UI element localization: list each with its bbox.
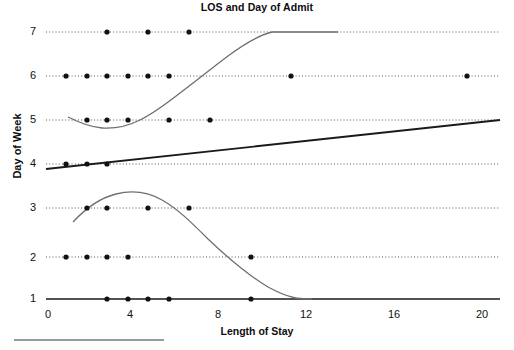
data-point: [145, 296, 150, 301]
data-point: [104, 161, 109, 166]
data-point: [166, 73, 171, 78]
data-point: [464, 73, 469, 78]
data-point: [63, 161, 68, 166]
data-point: [207, 117, 212, 122]
data-point: [125, 296, 130, 301]
footer-divider: [14, 339, 164, 341]
plot-area: [0, 0, 514, 350]
data-point: [84, 205, 89, 210]
chart-container: LOS and Day of Admit Day of Week Length …: [0, 0, 514, 350]
data-point: [145, 29, 150, 34]
data-point: [84, 161, 89, 166]
data-point: [248, 296, 253, 301]
data-point: [104, 29, 109, 34]
data-point: [104, 254, 109, 259]
data-point: [63, 73, 68, 78]
data-point: [288, 73, 293, 78]
data-point: [125, 117, 130, 122]
data-point: [84, 117, 89, 122]
data-point: [104, 73, 109, 78]
data-point: [186, 29, 191, 34]
data-point: [84, 254, 89, 259]
data-point: [63, 254, 68, 259]
data-point: [145, 73, 150, 78]
data-point: [104, 117, 109, 122]
upper-fitted-curve: [68, 32, 338, 128]
data-point: [166, 296, 171, 301]
data-points: [63, 29, 469, 301]
data-point: [104, 205, 109, 210]
data-point: [248, 254, 253, 259]
data-point: [104, 296, 109, 301]
data-point: [84, 73, 89, 78]
data-point: [166, 117, 171, 122]
data-point: [145, 205, 150, 210]
data-point: [125, 254, 130, 259]
data-point: [125, 73, 130, 78]
data-point: [186, 205, 191, 210]
